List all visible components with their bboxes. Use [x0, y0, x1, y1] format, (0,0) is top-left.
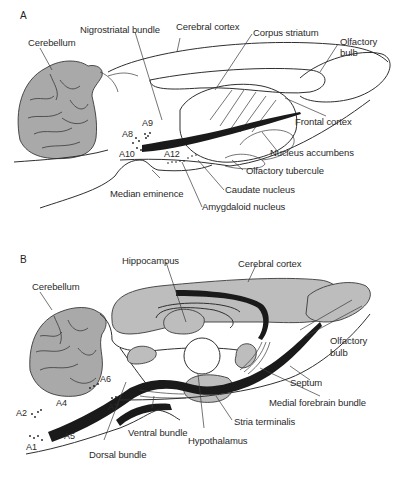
label-olfactory-bulb-a-line2: bulb [340, 48, 358, 58]
label-olfactory-tubercule: Olfactory tubercule [246, 166, 324, 176]
label-corpus-striatum: Corpus striatum [253, 28, 319, 38]
label-caudate-nucleus: Caudate nucleus [225, 185, 295, 195]
label-hippocampus: Hippocampus [122, 256, 179, 266]
label-stria-terminalis: Stria terminalis [234, 417, 295, 427]
label-a5: A5 [64, 432, 75, 441]
label-cerebral-cortex-a: Cerebral cortex [176, 22, 239, 32]
brain-pathways-figure [0, 0, 399, 485]
label-a12: A12 [164, 150, 180, 159]
label-cerebellum-a: Cerebellum [28, 38, 76, 48]
label-olfactory-bulb-b-line1: Olfactory [330, 336, 367, 346]
label-hypothalamus: Hypothalamus [188, 436, 248, 446]
label-dorsal-bundle: Dorsal bundle [89, 450, 146, 460]
label-frontal-cortex: Frontal cortex [295, 117, 352, 127]
label-nigrostriatal-bundle: Nigrostriatal bundle [80, 25, 160, 35]
panel-b-letter: B [20, 255, 27, 265]
label-cerebellum-b: Cerebellum [32, 282, 80, 292]
label-olfactory-bulb-a-line1: Olfactory [340, 37, 377, 47]
label-olfactory-bulb-b-line2: bulb [330, 348, 348, 358]
label-cerebral-cortex-b: Cerebral cortex [238, 259, 301, 269]
label-a1: A1 [26, 443, 37, 452]
label-amygdaloid-nucleus: Amygdaloid nucleus [202, 202, 285, 212]
label-a10: A10 [119, 150, 135, 159]
label-median-eminence: Median eminence [110, 189, 184, 199]
label-nucleus-accumbens: Nucleus accumbens [270, 148, 354, 158]
label-a6: A6 [100, 375, 111, 384]
panel-a-letter: A [20, 11, 27, 21]
label-a4: A4 [56, 399, 67, 408]
label-a8: A8 [122, 130, 133, 139]
label-septum: Septum [290, 378, 322, 388]
label-ventral-bundle: Ventral bundle [128, 428, 187, 438]
label-a2: A2 [16, 409, 27, 418]
label-medial-forebrain-bundle: Medial forebrain bundle [269, 398, 366, 408]
label-a9: A9 [142, 119, 153, 128]
label-a7: A7 [108, 403, 119, 412]
